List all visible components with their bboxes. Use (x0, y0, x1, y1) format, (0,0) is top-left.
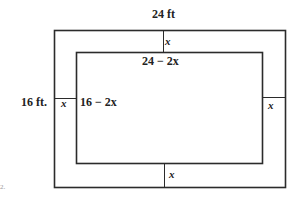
bottom-border-width-label: x (169, 169, 175, 180)
stray-mark: 2. (0, 184, 5, 191)
top-border-width-label: x (165, 36, 171, 47)
outer-width-label: 24 ft (152, 8, 175, 20)
left-border-width-label: x (61, 98, 67, 109)
inner-height-label: 16 − 2x (80, 96, 117, 108)
right-border-width-label: x (268, 100, 274, 111)
outer-height-label: 16 ft. (21, 96, 47, 108)
inner-width-label: 24 − 2x (142, 55, 179, 67)
